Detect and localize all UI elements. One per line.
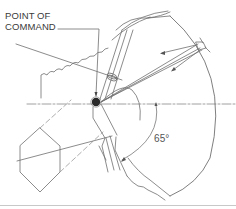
ray [101, 44, 198, 102]
point-of-command-label-line2: COMMAND [5, 21, 56, 32]
diagonal-line [16, 44, 122, 80]
point-of-command-label-line1: POINT OF [5, 10, 51, 21]
leader-arrowhead [95, 92, 98, 97]
hexagon [20, 128, 60, 192]
point-of-command-dot [92, 98, 100, 106]
angle-arc [122, 104, 157, 160]
bottom-divider [0, 205, 236, 206]
sector-arc [170, 16, 216, 196]
angle-label: 65° [154, 133, 169, 144]
